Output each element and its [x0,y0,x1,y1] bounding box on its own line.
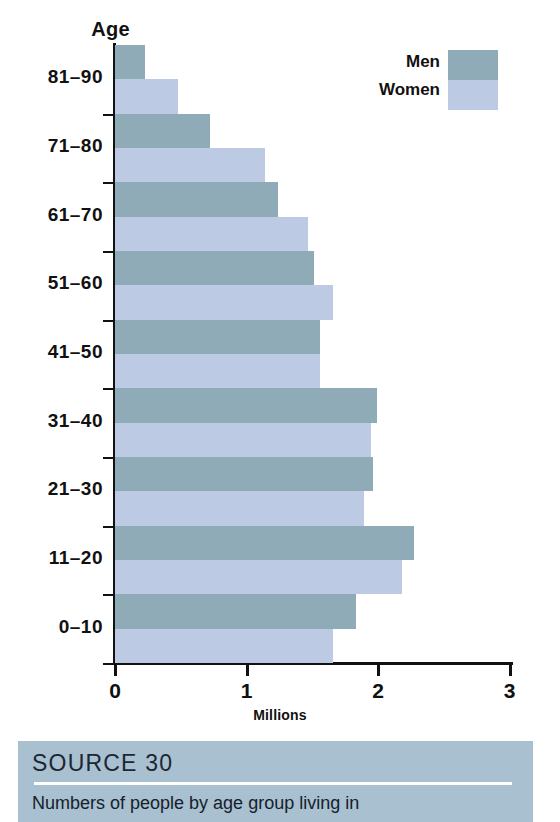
y-axis-label: 41–50 [0,341,103,363]
legend-swatch-men [448,50,498,80]
bar-men [115,114,210,148]
y-axis-label: 0–10 [0,616,103,638]
bar-men [115,251,314,285]
age-band-row [115,182,533,251]
bar-men [115,457,373,491]
source-title: SOURCE 30 [32,750,519,777]
y-axis-label: 21–30 [0,478,103,500]
y-axis-tick [103,320,115,322]
x-axis-label: 0 [95,679,135,703]
bar-men [115,320,320,354]
bar-women [115,217,308,251]
legend-swatch-women [448,80,498,110]
population-pyramid-figure: Age 81–9071–8061–7051–6041–5031–4021–301… [0,0,560,730]
age-band-row [115,114,533,183]
y-axis-tick [103,526,115,528]
age-band-row [115,457,533,526]
x-axis-tick [114,663,117,676]
bar-women [115,491,364,525]
x-axis-tick [246,663,249,676]
legend-swatch [448,50,498,110]
bar-women [115,560,402,594]
x-axis-label: 3 [490,679,530,703]
bar-men [115,45,145,79]
x-axis-title: Millions [0,707,560,723]
age-band-row [115,320,533,389]
bar-women [115,148,265,182]
y-axis-tick [103,251,115,253]
bar-women [115,354,320,388]
y-axis-tick [103,182,115,184]
bar-women [115,285,333,319]
age-band-row [115,594,533,663]
y-axis-tick [103,114,115,116]
x-axis-label: 2 [358,679,398,703]
bar-men [115,594,356,628]
y-axis-title: Age [60,18,130,41]
source-banner: SOURCE 30 Numbers of people by age group… [18,741,533,822]
bar-women [115,629,333,663]
x-axis-tick [377,663,380,676]
age-band-row [115,526,533,595]
bar-women [115,423,371,457]
plot-area: 81–9071–8061–7051–6041–5031–4021–3011–20… [115,45,533,663]
age-band-row [115,388,533,457]
bar-men [115,526,414,560]
y-axis-label: 61–70 [0,204,103,226]
bar-men [115,182,278,216]
source-divider [34,782,512,785]
x-axis-tick [509,663,512,676]
y-axis-label: 81–90 [0,66,103,88]
y-axis-label: 71–80 [0,135,103,157]
y-axis-label: 51–60 [0,272,103,294]
legend: Men Women [380,48,520,112]
x-axis-label: 1 [227,679,267,703]
y-axis-label: 31–40 [0,410,103,432]
source-caption: Numbers of people by age group living in [32,792,519,814]
y-axis-label: 11–20 [0,547,103,569]
age-band-row [115,251,533,320]
y-axis-tick [103,594,115,596]
y-axis-tick [103,457,115,459]
y-axis-tick [103,388,115,390]
legend-label-women: Women [320,80,440,100]
bar-women [115,79,178,113]
legend-label-men: Men [320,52,440,72]
bar-men [115,388,377,422]
